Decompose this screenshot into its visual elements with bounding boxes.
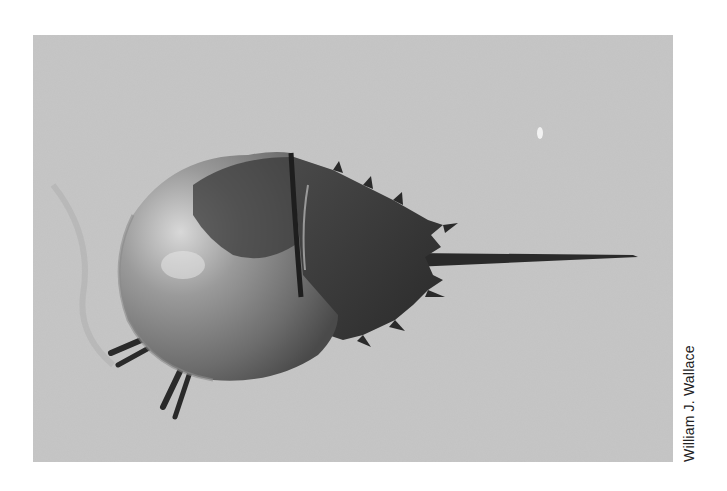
photo-credit: William J. Wallace bbox=[681, 345, 697, 462]
sand-speck bbox=[537, 127, 543, 139]
horseshoe-crab-photo bbox=[33, 35, 673, 462]
photograph bbox=[33, 35, 673, 462]
